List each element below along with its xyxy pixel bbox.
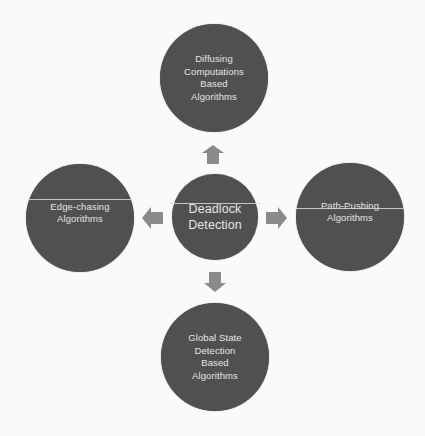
node-path-pushing: Path-Pushing Algorithms [296,163,404,271]
node-label: Global State Detection Based Algorithms [188,332,241,382]
diagram-canvas: Diffusing Computations Based Algorithms … [0,0,425,436]
node-label: Diffusing Computations Based Algorithms [184,53,244,103]
arrow-up-icon [202,145,224,164]
scan-line [296,208,404,209]
arrow-down-icon [204,272,226,292]
node-diffusing-computations: Diffusing Computations Based Algorithms [160,24,268,132]
node-label: Path-Pushing Algorithms [321,200,379,225]
node-global-state-detection: Global State Detection Based Algorithms [161,303,269,411]
node-label: Deadlock Detection [188,201,242,233]
node-deadlock-detection: Deadlock Detection [172,174,258,260]
arrow-right-icon [266,207,287,229]
scan-line [28,199,132,200]
node-label: Edge-chasing Algorithms [50,201,109,226]
node-edge-chasing: Edge-chasing Algorithms [26,164,134,272]
scan-line [170,203,262,204]
arrow-left-icon [142,207,163,229]
